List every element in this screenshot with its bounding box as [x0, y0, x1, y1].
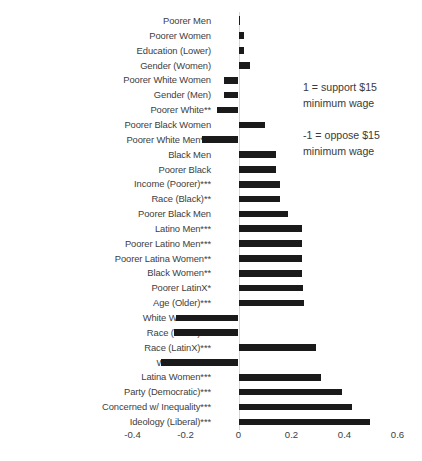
category-label: Poorer Women [6, 28, 211, 44]
category-label: Income (Poorer)*** [6, 176, 211, 192]
bar [239, 285, 304, 292]
category-label: Black Men [6, 147, 211, 163]
bar-row: Poorer Black [0, 162, 422, 178]
bar-row: Race (Black)** [0, 191, 422, 207]
bar [224, 92, 239, 99]
bar [239, 389, 342, 396]
category-label: Race (LatinX)*** [6, 340, 211, 356]
bar [239, 181, 280, 188]
bar [239, 270, 302, 277]
horizontal-bar-chart: Poorer MenPoorer WomenEducation (Lower)G… [0, 0, 422, 461]
bar-row: Poorer Women [0, 28, 422, 44]
bar-row: Race (LatinX)*** [0, 340, 422, 356]
bar-row: White Men*** [0, 355, 422, 371]
category-label: Latino Men*** [6, 221, 211, 237]
x-tick-label: -0.4 [124, 429, 141, 440]
category-label: Gender (Women) [6, 58, 211, 74]
x-tick-label: 0.4 [338, 429, 351, 440]
x-tick-label: 0.6 [391, 429, 404, 440]
plot-area: Poorer MenPoorer WomenEducation (Lower)G… [0, 0, 422, 461]
bar-row: Poorer Black Men [0, 206, 422, 222]
category-label: Poorer Latina Women** [6, 251, 211, 267]
bar-row: Race (White)*** [0, 325, 422, 341]
bar-row: Poorer Latino Men*** [0, 236, 422, 252]
bar-row: Poorer Men [0, 13, 422, 29]
annotation-support-note: 1 = support $15 minimum wage [303, 80, 377, 111]
category-label: Race (Black)** [6, 191, 211, 207]
annotation-oppose-note: -1 = oppose $15 minimum wage [303, 128, 380, 159]
bar [239, 404, 353, 411]
bar [239, 344, 316, 351]
bar-row: Poorer Latina Women** [0, 251, 422, 267]
bar [239, 166, 277, 173]
category-label: Poorer White Women [6, 72, 211, 88]
category-label: Age (Older)*** [6, 295, 211, 311]
bar-row: Education (Lower) [0, 43, 422, 59]
bar-row: Party (Democratic)*** [0, 384, 422, 400]
bar-row: Concerned w/ Inequality*** [0, 399, 422, 415]
bar [217, 107, 239, 114]
bar-row: Black Women** [0, 265, 422, 281]
category-label: Poorer Men [6, 13, 211, 29]
bar [239, 255, 302, 262]
bar-row: Gender (Women) [0, 58, 422, 74]
bar-row: Poorer LatinX* [0, 280, 422, 296]
bar [239, 16, 241, 25]
bar [239, 225, 302, 232]
category-label: Education (Lower) [6, 43, 211, 59]
bar [224, 77, 239, 84]
category-label: Latina Women*** [6, 369, 211, 385]
category-label: Poorer Black Women [6, 117, 211, 133]
bar [239, 300, 305, 307]
bar [174, 329, 238, 336]
bar-row: Latina Women*** [0, 369, 422, 385]
bar-row: Income (Poorer)*** [0, 176, 422, 192]
bar [239, 419, 370, 426]
bar [239, 122, 266, 129]
bar [239, 196, 280, 203]
bar [239, 62, 250, 69]
bar [239, 211, 289, 218]
x-tick-label: -0.2 [177, 429, 194, 440]
bar [239, 47, 245, 54]
x-tick-label: 0.2 [285, 429, 298, 440]
bar [239, 374, 322, 381]
category-label: Poorer Black Men [6, 206, 211, 222]
bar [239, 32, 245, 39]
x-axis-tick-labels: -0.4-0.200.20.40.6 [0, 429, 422, 447]
bar-row: Age (Older)*** [0, 295, 422, 311]
category-label: Black Women** [6, 265, 211, 281]
bar-row: Latino Men*** [0, 221, 422, 237]
category-label: Ideology (Liberal)*** [6, 414, 211, 430]
bar [176, 315, 238, 322]
category-label: Poorer Latino Men*** [6, 236, 211, 252]
category-label: Poorer LatinX* [6, 280, 211, 296]
bar-row: Ideology (Liberal)*** [0, 414, 422, 430]
bar [239, 151, 277, 158]
bar [202, 136, 238, 143]
bar [239, 240, 302, 247]
category-label: Concerned w/ Inequality*** [6, 399, 211, 415]
category-label: Poorer White Men*** [6, 132, 211, 148]
bar [161, 359, 239, 366]
bar-row: White Women*** [0, 310, 422, 326]
category-label: Gender (Men) [6, 87, 211, 103]
category-label: Poorer Black [6, 162, 211, 178]
category-label: Party (Democratic)*** [6, 384, 211, 400]
category-label: Poorer White** [6, 102, 211, 118]
x-tick-label: 0 [236, 429, 241, 440]
